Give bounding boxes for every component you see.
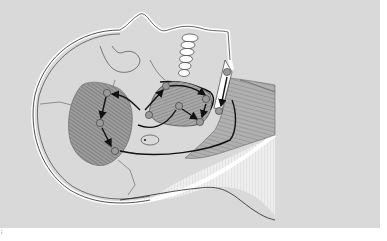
marker-m7 [202,95,209,102]
marker-m5 [145,111,152,118]
face-profile-outline [120,14,232,70]
ear-outline [100,46,140,72]
head-neck-anatomy-diagram [0,0,387,241]
teeth [179,34,199,77]
ear-canal [141,135,159,145]
marker-m10 [215,107,222,114]
marker-m8 [196,118,203,125]
marker-m4 [162,82,169,89]
corner-mark: ⁱ [1,230,2,237]
marker-m9 [223,68,230,75]
marker-m6 [175,102,182,109]
marker-m1 [103,89,110,96]
marker-m2 [96,119,103,126]
marker-m3 [111,147,118,154]
